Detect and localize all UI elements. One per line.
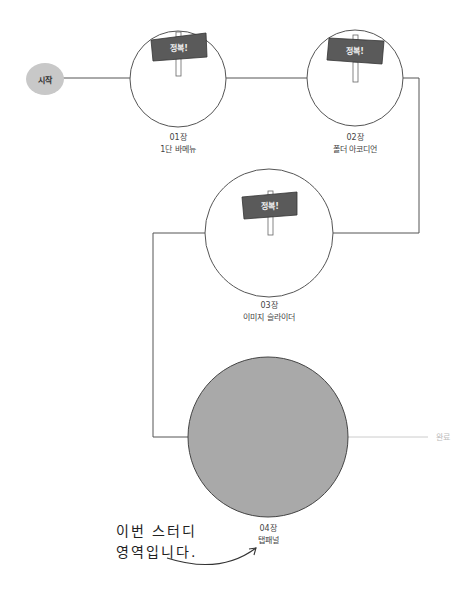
stage-04-chapter: 04장 bbox=[258, 523, 279, 535]
roadmap-svg: 정복! 정복! 정복! bbox=[0, 0, 476, 602]
sign-text-02: 정복! bbox=[346, 46, 364, 56]
stage-04-label: 04장 탭패널 bbox=[258, 523, 279, 547]
stage-01-chapter: 01장 bbox=[160, 132, 196, 144]
stage-03-node[interactable]: 정복! bbox=[205, 169, 333, 297]
study-area-note: 이번 스터디 영역입니다. bbox=[116, 521, 197, 563]
sign-text-01: 정복! bbox=[170, 43, 188, 53]
end-label: 완료 bbox=[436, 431, 450, 442]
study-roadmap-diagram: 정복! 정복! 정복! bbox=[0, 0, 476, 602]
stage-03-chapter: 03장 bbox=[243, 300, 295, 312]
start-node[interactable]: 시작 bbox=[26, 63, 64, 95]
stage-01-label: 01장 1단 바메뉴 bbox=[160, 132, 196, 156]
stage-01-node[interactable]: 정복! bbox=[130, 31, 226, 127]
stage-04-title: 탭패널 bbox=[258, 535, 279, 547]
stage-02-label: 02장 폴더 아코디언 bbox=[333, 132, 378, 156]
stage-04-node[interactable] bbox=[188, 357, 348, 517]
stage-02-node[interactable]: 정복! bbox=[307, 30, 403, 126]
stage-02-title: 폴더 아코디언 bbox=[333, 144, 378, 156]
stage-03-title: 이미지 슬라이더 bbox=[243, 312, 295, 324]
start-label: 시작 bbox=[38, 74, 52, 85]
sign-text-03: 정복! bbox=[261, 201, 279, 211]
stage-03-label: 03장 이미지 슬라이더 bbox=[243, 300, 295, 324]
stage-02-chapter: 02장 bbox=[333, 132, 378, 144]
note-line-1: 이번 스터디 bbox=[116, 521, 197, 542]
note-line-2: 영역입니다. bbox=[116, 542, 197, 563]
stage-01-title: 1단 바메뉴 bbox=[160, 144, 196, 156]
